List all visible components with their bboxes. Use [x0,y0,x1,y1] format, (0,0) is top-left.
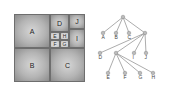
tree-edge [116,53,140,73]
tree-node-g-label: G [139,74,143,80]
tree-edge [100,33,145,53]
tree-node-i-label: I [133,54,134,60]
tree-edge [134,33,145,53]
tree-node-c-label: C [128,34,132,40]
tree-node-b-label: B [115,34,119,40]
tree-diagram: ABCDIJEFGH [0,0,169,91]
tree-edge [116,53,125,73]
tree-edge [145,33,146,53]
tree-edge [108,53,116,73]
tree-edge [103,17,123,33]
tree-node-root [121,15,125,19]
tree-node-d-label: D [99,54,103,60]
tree-edge [116,53,153,73]
tree-node-h-label: H [152,74,156,80]
tree-node-a-label: A [102,34,106,40]
tree-node-j-label: J [145,54,148,60]
tree-node-internal [143,31,147,35]
tree-node-e-label: E [107,74,111,80]
tree-node-internal2 [114,51,118,55]
tree-node-f-label: F [124,74,127,80]
